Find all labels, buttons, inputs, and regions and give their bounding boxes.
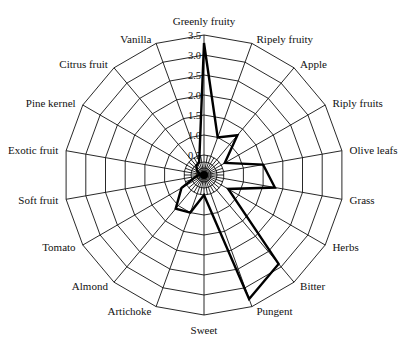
radial-tick-label: 2.0 (188, 90, 201, 101)
radial-tick-label: 3.0 (188, 50, 201, 61)
category-label: Almond (72, 280, 109, 292)
category-label: Vanilla (120, 33, 151, 45)
category-label: Pine kernel (26, 97, 76, 109)
category-label: Apple (300, 58, 327, 70)
category-label: Artichoke (108, 305, 152, 317)
category-label: Citrus fruit (59, 58, 108, 70)
category-label: Olive leafs (350, 144, 398, 156)
category-label: Greenly fruity (173, 15, 236, 27)
center-dot (200, 171, 208, 179)
category-label: Riply fruits (332, 97, 382, 109)
category-label: Exotic fruit (8, 144, 58, 156)
axis-spoke (204, 68, 294, 175)
category-label: Bitter (300, 280, 325, 292)
axis-spoke (114, 175, 204, 282)
radial-tick-label: 3.5 (188, 30, 201, 41)
radial-tick-label: 1.5 (188, 110, 201, 121)
category-label: Pungent (257, 305, 293, 317)
radar-chart: 00.51.01.52.02.53.03.5 Greenly fruityRip… (0, 0, 405, 346)
category-label: Soft fruit (18, 194, 58, 206)
category-label: Tomato (42, 241, 76, 253)
category-label: Herbs (332, 241, 358, 253)
category-label: Grass (350, 194, 375, 206)
radial-tick-label: 2.5 (188, 70, 201, 81)
category-label: Ripely fruity (257, 33, 314, 45)
category-label: Sweet (191, 324, 218, 336)
